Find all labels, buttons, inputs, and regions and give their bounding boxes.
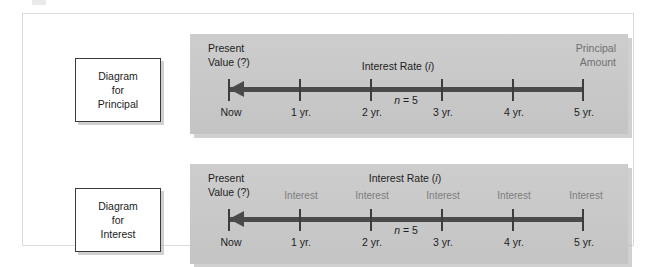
year-label-interest-0: Now — [220, 236, 241, 248]
label-box-interest-line1: Diagram — [98, 199, 138, 213]
tick-principal-4 — [512, 79, 514, 101]
tick-interest-0 — [228, 209, 230, 231]
year-label-interest-4: 4 yr. — [504, 236, 524, 248]
label-box-principal-line1: Diagram — [98, 69, 138, 83]
timeline-arrowhead-principal — [229, 81, 244, 97]
present-value-line1-interest: Present — [208, 172, 250, 186]
year-label-interest-5: 5 yr. — [574, 236, 594, 248]
present-value-line2-interest: Value (?) — [208, 186, 250, 200]
n-value-label-principal: n = 5 — [394, 94, 418, 106]
year-label-principal-2: 2 yr. — [362, 106, 382, 118]
tick-interest-1 — [299, 209, 301, 231]
interest-rate-suffix-principal: ) — [431, 60, 435, 72]
label-box-interest: Diagram for Interest — [75, 188, 161, 252]
diagram-panel-interest: Present Value (?) Interest Rate (i) Inte… — [190, 164, 628, 264]
timeline-axis-interest — [229, 217, 584, 222]
label-box-interest-line3: Interest — [100, 227, 135, 241]
present-value-line1-principal: Present — [208, 42, 250, 56]
diagram-panel-principal: Present Value (?) Interest Rate (i) Prin… — [190, 34, 628, 134]
present-value-label-principal: Present Value (?) — [208, 42, 250, 69]
year-label-principal-3: 3 yr. — [433, 106, 453, 118]
year-label-principal-4: 4 yr. — [504, 106, 524, 118]
label-box-interest-line2: for — [112, 213, 124, 227]
n-equals-interest: = 5 — [400, 224, 418, 236]
n-value-label-interest: n = 5 — [394, 224, 418, 236]
tick-interest-3 — [441, 209, 443, 231]
interest-rate-suffix-interest: ) — [438, 172, 442, 184]
interest-rate-label-interest: Interest Rate (i) — [369, 172, 441, 185]
label-box-principal-line3: Principal — [98, 97, 138, 111]
timeline-axis-principal — [229, 87, 584, 92]
principal-amount-label: Principal Amount — [576, 42, 616, 69]
label-box-principal: Diagram for Principal — [75, 58, 161, 122]
interest-rate-prefix-interest: Interest Rate ( — [369, 172, 436, 184]
present-value-line2-principal: Value (?) — [208, 56, 250, 70]
year-label-interest-3: 3 yr. — [433, 236, 453, 248]
present-value-label-interest: Present Value (?) — [208, 172, 250, 199]
year-label-interest-2: 2 yr. — [362, 236, 382, 248]
cropped-text-artifact — [32, 0, 46, 5]
year-label-principal-5: 5 yr. — [574, 106, 594, 118]
timeline-arrowhead-interest — [229, 211, 244, 227]
figure-frame: Diagram for Principal Present Value (?) … — [22, 13, 634, 246]
tick-principal-1 — [299, 79, 301, 101]
interest-tag-4: Interest — [497, 190, 530, 201]
tick-interest-5 — [582, 209, 584, 231]
label-box-principal-line2: for — [112, 83, 124, 97]
tick-principal-2 — [370, 79, 372, 101]
figure-root: Diagram for Principal Present Value (?) … — [0, 0, 656, 267]
year-label-interest-1: 1 yr. — [291, 236, 311, 248]
interest-rate-label-principal: Interest Rate (i) — [362, 60, 434, 73]
year-label-principal-0: Now — [220, 106, 241, 118]
interest-rate-prefix-principal: Interest Rate ( — [362, 60, 429, 72]
interest-tag-3: Interest — [426, 190, 459, 201]
tick-principal-5 — [582, 79, 584, 101]
principal-amount-line2: Amount — [576, 56, 616, 70]
tick-interest-2 — [370, 209, 372, 231]
year-label-principal-1: 1 yr. — [291, 106, 311, 118]
interest-tag-2: Interest — [355, 190, 388, 201]
n-equals-principal: = 5 — [400, 94, 418, 106]
interest-tag-5: Interest — [569, 190, 602, 201]
tick-interest-4 — [512, 209, 514, 231]
tick-principal-0 — [228, 79, 230, 101]
interest-tag-1: Interest — [284, 190, 317, 201]
tick-principal-3 — [441, 79, 443, 101]
principal-amount-line1: Principal — [576, 42, 616, 56]
